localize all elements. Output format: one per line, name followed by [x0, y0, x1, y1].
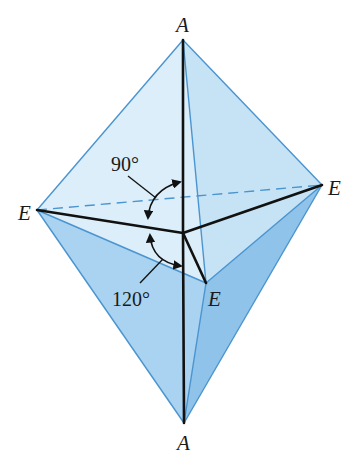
label-axial-top: A	[174, 13, 189, 37]
label-equatorial-left: E	[17, 201, 31, 225]
label-angle-90: 90°	[111, 153, 139, 175]
label-equatorial-right: E	[327, 176, 341, 200]
label-angle-120: 120°	[112, 288, 150, 310]
trigonal-bipyramid-diagram: A A E E E 90° 120°	[0, 0, 360, 466]
bond-axial-bottom	[183, 233, 184, 423]
label-axial-bottom: A	[175, 431, 190, 455]
label-equatorial-front: E	[207, 287, 221, 311]
